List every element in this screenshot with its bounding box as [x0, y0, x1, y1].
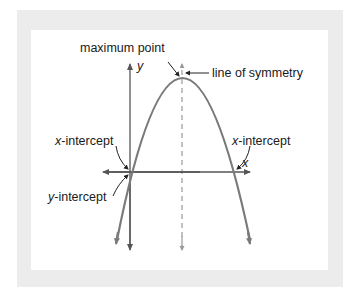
label-y-axis: y: [137, 60, 143, 73]
label-x-intercept-left: x-intercept: [55, 135, 113, 148]
y-intercept-pointer: [113, 175, 128, 196]
label-x-axis: x: [242, 157, 248, 170]
x-intercept-left-pointer: [116, 146, 128, 169]
label-y-intercept: y-intercept: [48, 191, 106, 204]
parabola-diagram: [0, 0, 355, 297]
label-line-of-symmetry: line of symmetry: [212, 67, 303, 80]
label-x-intercept-right: x-intercept: [232, 135, 290, 148]
maximum-point-pointer: [168, 62, 179, 76]
parabola-curve: [117, 78, 250, 240]
label-maximum-point: maximum point: [80, 42, 165, 55]
